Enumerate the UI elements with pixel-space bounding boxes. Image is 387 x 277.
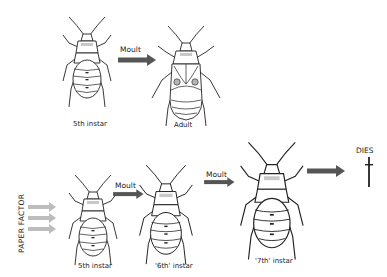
moult-arrow-bottom-1 <box>113 194 114 195</box>
stage-label-5th-instar-bottom: 5th instar <box>78 262 112 270</box>
dies-arrow <box>307 171 308 172</box>
dagger-cross-icon <box>369 157 370 158</box>
stage-label-5th-instar-top: 5th instar <box>73 120 107 128</box>
nymph-6th-instar <box>166 218 167 219</box>
moult-arrow-top <box>118 60 119 61</box>
dies-label: DIES <box>356 146 374 155</box>
nymph-7th-instar <box>272 205 273 206</box>
stage-label-adult: Adult <box>174 121 192 129</box>
moult-label-bottom-1: Moult <box>115 181 136 190</box>
paper-factor-arrow-2 <box>28 218 29 219</box>
paper-factor-label: PAPER FACTOR <box>17 194 26 253</box>
moult-label-bottom-2: Moult <box>206 170 227 179</box>
moult-arrow-bottom-2 <box>204 182 205 183</box>
stage-label-7th-instar: '7th' instar <box>255 257 293 265</box>
nymph-5th-instar-bottom <box>93 223 94 224</box>
nymph-5th-instar-top <box>87 65 88 66</box>
paper-factor-arrow-1 <box>28 207 29 208</box>
paper-factor-arrow-3 <box>28 229 29 230</box>
adult-bug <box>186 80 187 81</box>
stage-label-6th-instar: '6th' instar <box>155 262 193 270</box>
moult-label-top: Moult <box>120 45 141 54</box>
